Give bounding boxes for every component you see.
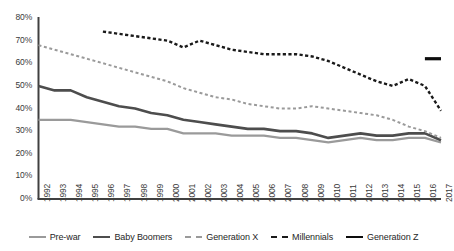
legend-swatch-icon xyxy=(185,236,202,238)
legend-swatch-icon xyxy=(29,236,46,238)
series-line-baby-boomers xyxy=(39,86,442,140)
legend-label: Generation Z xyxy=(367,232,418,242)
series-line-millennials xyxy=(103,32,441,111)
legend-swatch-icon xyxy=(271,236,288,238)
legend-item-pre-war[interactable]: Pre-war xyxy=(29,232,81,242)
legend-label: Generation X xyxy=(206,232,258,242)
legend-item-baby-boomers[interactable]: Baby Boomers xyxy=(93,232,172,242)
legend-label: Pre-war xyxy=(50,232,81,242)
legend-label: Baby Boomers xyxy=(114,232,172,242)
series-line-pre-war xyxy=(39,120,442,143)
legend-item-generation-x[interactable]: Generation X xyxy=(185,232,258,242)
legend-label: Millennials xyxy=(292,232,333,242)
legend-item-millennials[interactable]: Millennials xyxy=(271,232,333,242)
legend-swatch-icon xyxy=(93,236,110,238)
chart-legend: Pre-warBaby BoomersGeneration XMillennia… xyxy=(0,232,447,242)
legend-swatch-icon xyxy=(346,236,363,238)
legend-item-generation-z[interactable]: Generation Z xyxy=(346,232,418,242)
